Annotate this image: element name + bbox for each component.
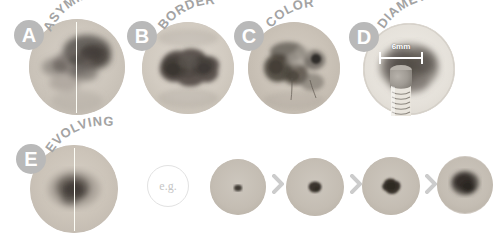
sequence-chevron-2 — [350, 174, 362, 194]
badge-c: C — [234, 21, 264, 51]
svg-text:COLOR: COLOR — [262, 0, 315, 30]
example-bubble: e.g. — [147, 165, 189, 207]
svg-text:EVOLVING: EVOLVING — [42, 113, 115, 155]
caption-diameter: DIAMETER — [379, 0, 483, 39]
caption-evolving-text: EVOLVING — [42, 113, 115, 155]
ruler-cap-right — [421, 52, 423, 64]
svg-text:ASYMMETRY: ASYMMETRY — [40, 0, 126, 34]
sequence-chevron-1 — [272, 174, 284, 194]
ruler-bar — [379, 57, 423, 59]
caption-diameter-text: DIAMETER — [374, 0, 447, 31]
evolving-stage-1-photo — [210, 159, 266, 215]
evolving-stage-3-photo — [362, 157, 420, 215]
svg-text:BORDER: BORDER — [155, 0, 216, 32]
caption-color-text: COLOR — [262, 0, 315, 30]
badge-a: A — [14, 20, 44, 50]
svg-text:DIAMETER: DIAMETER — [374, 0, 447, 31]
diameter-ruler: 6mm — [379, 48, 423, 64]
diameter-measure-label: 6mm — [392, 42, 411, 51]
pencil-icon — [386, 62, 416, 118]
caption-asymmetry-text: ASYMMETRY — [40, 0, 126, 34]
example-bubble-label: e.g. — [159, 179, 176, 194]
caption-border-text: BORDER — [155, 0, 216, 32]
evolving-stage-2-photo — [286, 158, 344, 216]
badge-e: E — [16, 144, 46, 174]
caption-color: COLOR — [266, 2, 346, 40]
badge-b: B — [127, 21, 157, 51]
evolving-stage-4-photo — [437, 156, 493, 214]
badge-d: D — [349, 22, 379, 52]
sequence-chevron-3 — [425, 174, 437, 194]
caption-evolving: EVOLVING — [47, 123, 143, 163]
ruler-cap-left — [379, 52, 381, 64]
